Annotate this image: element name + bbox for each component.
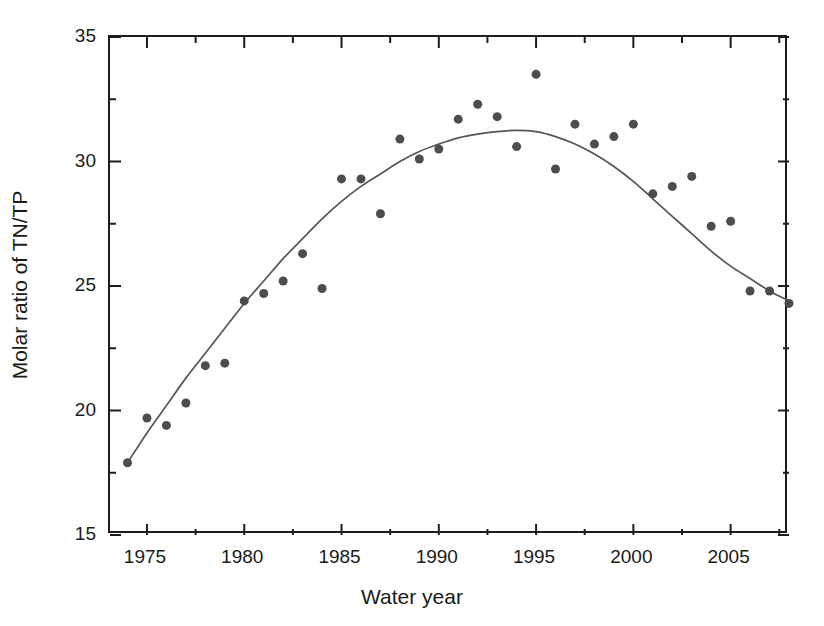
data-point [570, 120, 579, 129]
x-tick-label: 2000 [610, 547, 652, 566]
data-point [415, 155, 424, 164]
data-point [629, 120, 638, 129]
data-point [765, 286, 774, 295]
data-point [512, 142, 521, 151]
x-tick-label: 1980 [221, 547, 263, 566]
data-point [337, 174, 346, 183]
data-point [220, 359, 229, 368]
data-point [318, 284, 327, 293]
y-axis-title: Molar ratio of TN/TP [8, 191, 32, 380]
data-point [142, 413, 151, 422]
data-point [279, 277, 288, 286]
data-point [240, 296, 249, 305]
data-point [707, 222, 716, 231]
data-point [201, 361, 210, 370]
data-point [785, 299, 794, 308]
data-point [726, 217, 735, 226]
data-point [376, 209, 385, 218]
axis-ticks [110, 37, 789, 535]
x-tick-label: 1985 [318, 547, 360, 566]
y-tick-label: 25 [48, 275, 96, 294]
x-tick-label: 2005 [707, 547, 749, 566]
plot-canvas [110, 37, 789, 535]
data-point [162, 421, 171, 430]
y-tick-label: 30 [48, 150, 96, 169]
data-point [493, 112, 502, 121]
data-point [434, 145, 443, 154]
x-tick-label: 1975 [124, 547, 166, 566]
data-point [532, 70, 541, 79]
y-tick-label: 20 [48, 399, 96, 418]
data-point [609, 132, 618, 141]
data-point [648, 189, 657, 198]
data-point [473, 100, 482, 109]
plot-area [108, 35, 787, 533]
data-point [687, 172, 696, 181]
data-point [590, 140, 599, 149]
data-point [356, 174, 365, 183]
data-point [298, 249, 307, 258]
y-axis-title-container: Molar ratio of TN/TP [0, 0, 40, 570]
y-tick-label: 35 [48, 26, 96, 45]
y-tick-label: 15 [48, 524, 96, 543]
data-point [395, 135, 404, 144]
data-point [123, 458, 132, 467]
data-point [181, 399, 190, 408]
chart-figure: Molar ratio of TN/TP 1975198019851990199… [0, 0, 824, 626]
data-point [746, 286, 755, 295]
data-point [551, 164, 560, 173]
data-point [454, 115, 463, 124]
scatter-points [123, 70, 793, 467]
data-point [668, 182, 677, 191]
x-axis-title: Water year [0, 585, 824, 609]
data-point [259, 289, 268, 298]
x-tick-label: 1990 [416, 547, 458, 566]
x-tick-label: 1995 [513, 547, 555, 566]
